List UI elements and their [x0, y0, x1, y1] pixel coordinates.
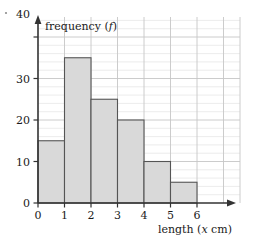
x-axis-tick-labels: 0 1 2 3 4 5 6 — [35, 209, 201, 222]
x-tick-label-1: 1 — [61, 209, 68, 222]
y-tick-label-10: 10 — [16, 156, 30, 169]
x-axis-title-prefix: length ( — [158, 223, 201, 236]
y-tick-label-40: 40 — [16, 8, 30, 21]
x-axis-arrow-icon — [227, 200, 236, 207]
bar-2-3 — [91, 99, 118, 203]
histogram-figure: 0 10 20 30 40 0 1 2 3 4 5 6 frequency (f… — [0, 0, 254, 237]
bar-3-4 — [118, 120, 145, 203]
y-axis-tick-labels: 0 10 20 30 40 — [16, 8, 30, 210]
x-tick-label-3: 3 — [114, 209, 121, 222]
x-tick-label-0: 0 — [35, 209, 42, 222]
y-axis-arrow-icon — [35, 15, 42, 24]
y-tick-label-0: 0 — [23, 197, 30, 210]
y-axis-title: frequency (f) — [45, 20, 117, 33]
y-tick-label-30: 30 — [16, 73, 30, 86]
histogram-svg: 0 10 20 30 40 0 1 2 3 4 5 6 frequency (f… — [0, 0, 254, 237]
y-axis-title-suffix: ) — [113, 20, 117, 33]
y-axis-title-prefix: frequency ( — [45, 20, 109, 33]
x-tick-label-4: 4 — [141, 209, 148, 222]
bar-0-1 — [38, 141, 65, 203]
bar-4-5 — [144, 162, 171, 204]
page-speck-mark — [5, 12, 7, 14]
bar-5-6 — [171, 182, 198, 203]
x-axis-title: length (x cm) — [158, 223, 232, 236]
x-tick-label-2: 2 — [88, 209, 95, 222]
y-tick-label-20: 20 — [16, 114, 30, 127]
bar-1-2 — [65, 58, 92, 203]
x-tick-label-6: 6 — [194, 209, 201, 222]
x-tick-label-5: 5 — [167, 209, 174, 222]
x-axis-title-suffix: cm) — [208, 223, 232, 236]
